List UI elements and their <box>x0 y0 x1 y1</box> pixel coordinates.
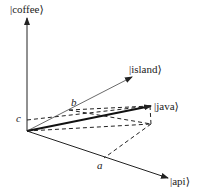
java-vector <box>27 106 151 131</box>
component-c-label: c <box>16 113 21 124</box>
component-b-label: b <box>71 97 77 108</box>
projection-lines <box>27 106 151 158</box>
coffee-axis-label: |coffee⟩ <box>10 4 44 15</box>
island-axis-label: |island⟩ <box>129 64 162 75</box>
island-axis <box>27 77 132 131</box>
api-axis-label: |api⟩ <box>170 176 190 187</box>
vector-space-diagram: |coffee⟩ |island⟩ |api⟩ |java⟩ a b c <box>0 0 201 187</box>
java-vector-label: |java⟩ <box>154 101 179 112</box>
component-a-label: a <box>97 160 103 171</box>
